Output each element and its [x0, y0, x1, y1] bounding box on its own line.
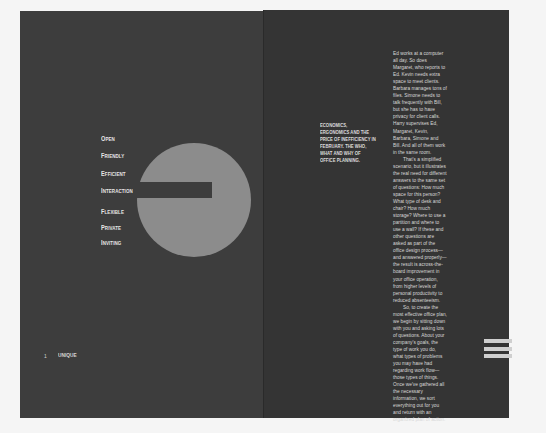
left-page: OPEN FRIENDLY EFFICIENT INTERACTION FLEX…	[20, 11, 264, 418]
attribute-interaction: INTERACTION	[101, 187, 133, 194]
stripe	[484, 354, 512, 358]
right-page: ECONOMICS, ERGONOMICS AND THE PRICE OF I…	[264, 10, 509, 418]
attribute-rest: LEXIBLE	[105, 209, 124, 215]
gray-circle-graphic	[137, 143, 251, 257]
attribute-efficient: EFFICIENT	[101, 170, 126, 177]
footer-label: UNIQUE	[58, 352, 77, 358]
body-paragraph: Ed works at a computer all day. So does …	[393, 50, 447, 156]
attribute-rest: NVITING	[103, 240, 122, 246]
attribute-rest: RIENDLY	[105, 153, 125, 159]
attribute-rest: NTERACTION	[103, 188, 133, 194]
dark-bar-graphic	[136, 182, 212, 198]
attribute-rest: FFICIENT	[105, 171, 126, 177]
stripe	[484, 339, 512, 343]
attribute-rest: RIVATE	[105, 225, 121, 231]
body-paragraph: So, to create the most effective office …	[393, 304, 447, 424]
body-column: Ed works at a computer all day. So does …	[393, 50, 447, 423]
attribute-rest: PEN	[105, 136, 114, 142]
stripes-icon	[484, 339, 512, 362]
page-number: 1	[44, 353, 47, 359]
attribute-private: PRIVATE	[101, 224, 121, 231]
attribute-flexible: FLEXIBLE	[101, 208, 124, 215]
attribute-inviting: INVITING	[101, 239, 121, 246]
attribute-open: OPEN	[101, 135, 115, 142]
headline: ECONOMICS, ERGONOMICS AND THE PRICE OF I…	[320, 122, 377, 164]
body-paragraph: That's a simplified scenario, but it ill…	[393, 156, 447, 304]
attribute-friendly: FRIENDLY	[101, 152, 124, 159]
stripe	[484, 347, 512, 351]
